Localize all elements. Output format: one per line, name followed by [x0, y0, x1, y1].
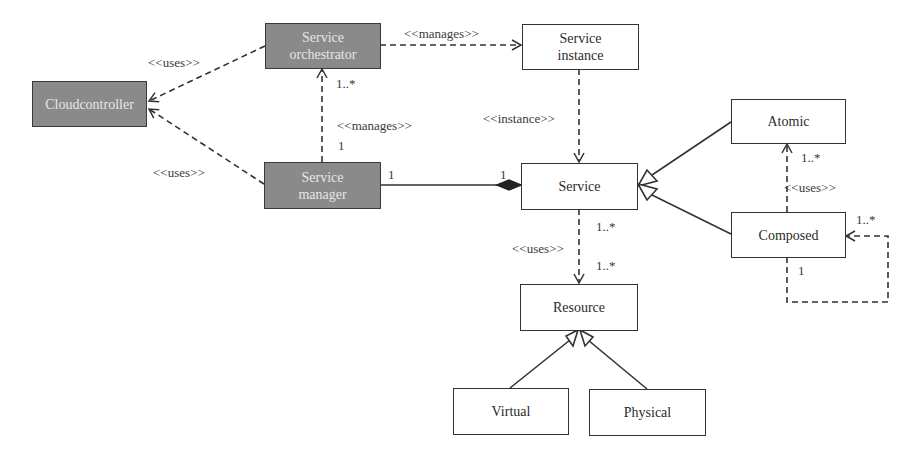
gen-triangle-lower	[638, 184, 657, 200]
label-mult-service-left: 1	[500, 167, 507, 182]
class-atomic[interactable]: Atomic	[731, 99, 846, 144]
class-cloudcontroller[interactable]: Cloudcontroller	[32, 81, 147, 127]
label-mult-service-down: 1..*	[596, 219, 616, 234]
label-manages-mid: <<manages>>	[337, 118, 412, 133]
class-service-manager-label: Service manager	[298, 169, 346, 203]
gen-composed-service	[652, 195, 731, 234]
label-mult-manager-up: 1	[338, 138, 345, 153]
label-mult-atomic: 1..*	[801, 150, 821, 165]
class-atomic-label: Atomic	[768, 113, 810, 130]
class-service-instance[interactable]: Service instance	[522, 24, 639, 70]
class-service-label: Service	[559, 178, 601, 195]
label-uses-bottom: <<uses>>	[153, 165, 205, 180]
class-service-orchestrator[interactable]: Service orchestrator	[265, 23, 381, 69]
class-service[interactable]: Service	[521, 163, 638, 210]
label-mult-manager-right: 1	[388, 167, 395, 182]
gen-atomic-service	[652, 122, 731, 175]
label-mult-orchestrator: 1..*	[336, 76, 356, 91]
class-service-orchestrator-label: Service orchestrator	[290, 29, 357, 63]
class-physical-label: Physical	[624, 404, 671, 421]
label-uses-top: <<uses>>	[148, 55, 200, 70]
label-uses-atomic: <<uses>>	[784, 180, 836, 195]
gen-virtual-resource	[510, 340, 570, 388]
label-instance: <<instance>>	[483, 111, 555, 126]
label-mult-resource-top: 1..*	[596, 258, 616, 273]
class-virtual-label: Virtual	[492, 403, 531, 420]
class-service-manager[interactable]: Service manager	[264, 162, 381, 209]
class-cloudcontroller-label: Cloudcontroller	[45, 96, 134, 113]
class-resource-label: Resource	[553, 299, 605, 316]
label-uses-resource: <<uses>>	[512, 241, 564, 256]
gen-triangle-virtual	[566, 330, 578, 346]
label-manages-top: <<manages>>	[404, 26, 479, 41]
gen-triangle-physical	[580, 330, 593, 346]
class-resource[interactable]: Resource	[520, 284, 638, 331]
class-virtual[interactable]: Virtual	[453, 388, 569, 435]
class-service-instance-label: Service instance	[558, 30, 604, 64]
gen-physical-resource	[588, 340, 647, 389]
class-composed[interactable]: Composed	[731, 212, 846, 258]
class-composed-label: Composed	[759, 227, 819, 244]
label-mult-composed-self-out: 1	[798, 263, 805, 278]
uml-diagram-canvas: Cloudcontroller Service orchestrator Ser…	[0, 0, 917, 460]
gen-triangle-upper	[638, 170, 657, 186]
class-physical[interactable]: Physical	[589, 389, 706, 436]
label-mult-composed-self-in: 1..*	[856, 212, 876, 227]
